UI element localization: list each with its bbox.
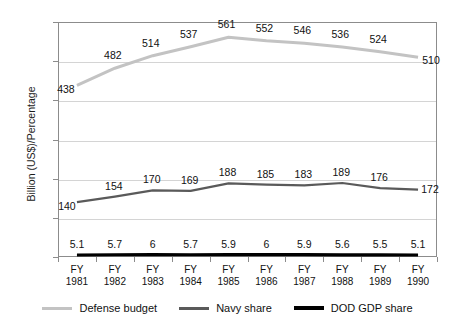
- point-label: 524: [363, 34, 393, 45]
- x-category-prefix: FY: [58, 264, 96, 276]
- x-category-prefix: FY: [96, 264, 134, 276]
- x-category-prefix: FY: [323, 264, 361, 276]
- point-label: 561: [212, 19, 242, 30]
- x-category-year: 1986: [247, 276, 285, 288]
- point-label: 154: [99, 181, 129, 192]
- legend-item[interactable]: DOD GDP share: [294, 302, 413, 314]
- x-category-label: FY1982: [96, 264, 134, 288]
- x-category-label: FY1983: [134, 264, 172, 288]
- point-label: 140: [52, 201, 82, 212]
- point-label: 170: [137, 174, 167, 185]
- x-category-prefix: FY: [134, 264, 172, 276]
- x-category-year: 1989: [361, 276, 399, 288]
- x-tick-mark: [323, 257, 324, 262]
- x-category-year: 1982: [96, 276, 134, 288]
- x-category-label: FY1987: [285, 264, 323, 288]
- x-category-prefix: FY: [172, 264, 210, 276]
- chart-legend: Defense budgetNavy shareDOD GDP share: [0, 298, 455, 318]
- legend-line-swatch: [42, 307, 72, 310]
- x-category-year: 1984: [172, 276, 210, 288]
- point-label: 546: [287, 25, 317, 36]
- point-label: 536: [325, 29, 355, 40]
- x-tick-mark: [134, 257, 135, 262]
- x-category-prefix: FY: [210, 264, 248, 276]
- x-category-year: 1990: [399, 276, 437, 288]
- gdp-share-label: 5.1: [58, 238, 96, 250]
- x-category-prefix: FY: [361, 264, 399, 276]
- legend-label: DOD GDP share: [331, 302, 413, 314]
- x-category-year: 1981: [58, 276, 96, 288]
- point-label: 482: [98, 50, 128, 61]
- x-tick-mark: [361, 257, 362, 262]
- point-label: 189: [326, 167, 356, 178]
- x-tick-mark: [285, 257, 286, 262]
- legend-label: Defense budget: [79, 302, 157, 314]
- point-label: 510: [416, 55, 446, 66]
- gdp-share-label: 5.6: [323, 238, 361, 250]
- gridline: [59, 141, 436, 142]
- x-tick-mark: [248, 257, 249, 262]
- point-label: 514: [136, 38, 166, 49]
- line-chart-figure: Billion (US$)/Percentage 600500400300200…: [0, 0, 455, 328]
- legend-item[interactable]: Defense budget: [42, 302, 157, 314]
- gdp-share-label: 5.7: [96, 238, 134, 250]
- gridline: [59, 219, 436, 220]
- x-category-label: FY1990: [399, 264, 437, 288]
- gdp-share-label: 5.7: [172, 238, 210, 250]
- y-axis-title: Billion (US$)/Percentage: [25, 64, 37, 224]
- x-category-label: FY1985: [210, 264, 248, 288]
- x-tick-mark: [399, 257, 400, 262]
- gdp-share-label: 5.9: [210, 238, 248, 250]
- x-category-label: FY1989: [361, 264, 399, 288]
- gdp-share-label: 5.5: [361, 238, 399, 250]
- x-tick-mark: [210, 257, 211, 262]
- x-category-year: 1987: [285, 276, 323, 288]
- gdp-share-label: 5.9: [285, 238, 323, 250]
- x-category-label: FY1988: [323, 264, 361, 288]
- point-label: 185: [250, 169, 280, 180]
- point-label: 172: [415, 184, 445, 195]
- x-category-prefix: FY: [399, 264, 437, 276]
- x-tick-mark: [58, 257, 59, 262]
- x-tick-mark: [437, 257, 438, 262]
- point-label: 188: [213, 167, 243, 178]
- x-category-label: FY1981: [58, 264, 96, 288]
- legend-line-swatch: [179, 307, 209, 310]
- point-label: 537: [174, 29, 204, 40]
- legend-label: Navy share: [216, 302, 272, 314]
- x-category-year: 1983: [134, 276, 172, 288]
- x-category-prefix: FY: [285, 264, 323, 276]
- x-category-prefix: FY: [247, 264, 285, 276]
- x-category-label: FY1986: [247, 264, 285, 288]
- x-category-year: 1988: [323, 276, 361, 288]
- legend-line-swatch: [294, 306, 324, 310]
- point-label: 176: [364, 172, 394, 183]
- point-label: 183: [288, 169, 318, 180]
- x-tick-mark: [172, 257, 173, 262]
- x-category-year: 1985: [210, 276, 248, 288]
- gdp-share-label: 5.1: [399, 238, 437, 250]
- gdp-share-label: 6: [134, 238, 172, 250]
- legend-item[interactable]: Navy share: [179, 302, 272, 314]
- point-label: 552: [249, 23, 279, 34]
- gridline: [59, 62, 436, 63]
- x-tick-mark: [96, 257, 97, 262]
- gdp-share-label: 6: [247, 238, 285, 250]
- point-label: 169: [175, 175, 205, 186]
- point-label: 438: [51, 84, 81, 95]
- gridline: [59, 101, 436, 102]
- x-category-label: FY1984: [172, 264, 210, 288]
